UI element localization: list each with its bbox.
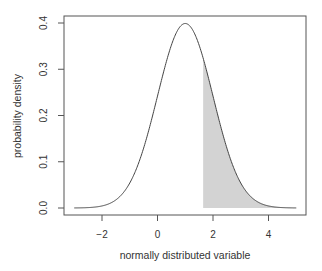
x-tick-label: 2 [210, 229, 216, 240]
x-axis-title: normally distributed variable [120, 249, 251, 261]
x-tick-label: −2 [96, 229, 108, 240]
y-tick-label: 0.2 [38, 108, 49, 122]
y-axis-title: probability density [11, 73, 23, 158]
y-tick-label: 0.3 [38, 62, 49, 76]
x-tick-label: 4 [266, 229, 272, 240]
shaded-tail-region [203, 58, 296, 208]
x-axis: −2024 [96, 215, 271, 240]
chart-canvas: −2024 0.00.10.20.30.4 normally distribut… [0, 0, 322, 271]
y-tick-label: 0.1 [38, 154, 49, 168]
density-curve [74, 23, 296, 207]
y-axis: 0.00.10.20.30.4 [38, 16, 64, 215]
y-tick-label: 0.4 [38, 16, 49, 30]
plot-frame [64, 16, 306, 215]
y-tick-label: 0.0 [38, 201, 49, 215]
x-tick-label: 0 [155, 229, 161, 240]
